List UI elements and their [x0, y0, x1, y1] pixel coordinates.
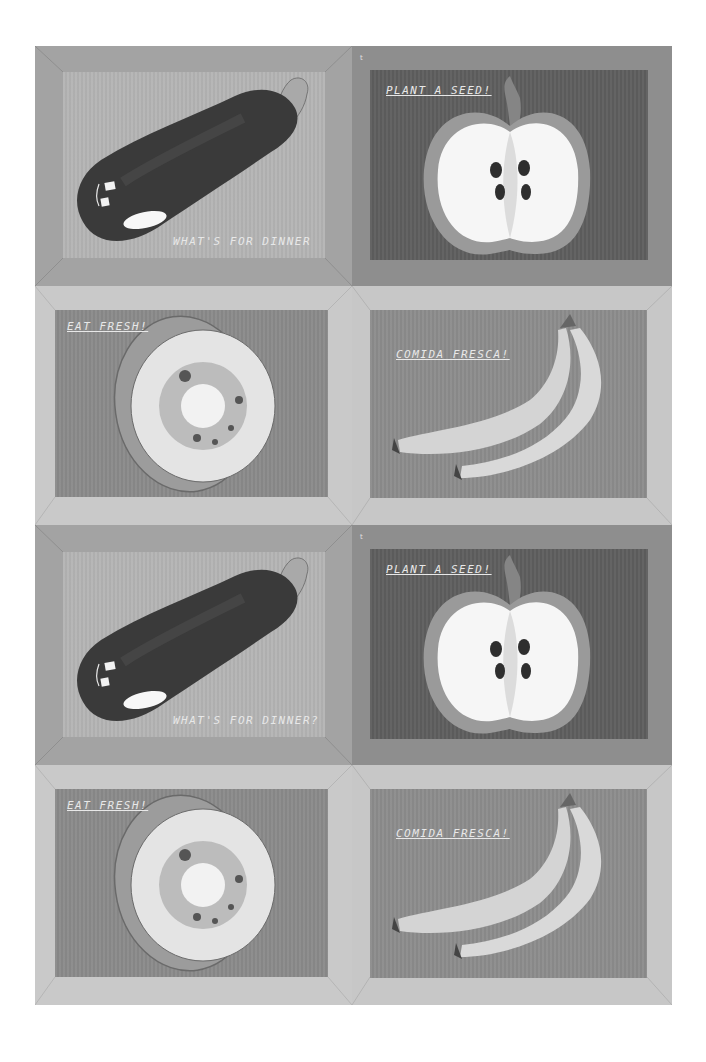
- placemat-inner: WHAT'S FOR DINNER?: [63, 552, 325, 737]
- placemat-caption: WHAT'S FOR DINNER?: [173, 714, 319, 727]
- placemat-caption: COMIDA FRESCA!: [396, 827, 510, 840]
- banana-illustration: [370, 789, 647, 978]
- apple-illustration: [370, 549, 648, 739]
- placemat-sheet: WHAT'S FOR DINNER t PLANT A SEED!: [35, 46, 672, 1005]
- kiwi-illustration: [55, 789, 328, 977]
- placemat-inner: PLANT A SEED!: [370, 549, 648, 739]
- placemat-inner: PLANT A SEED!: [370, 70, 648, 260]
- placemat-caption: PLANT A SEED!: [386, 563, 492, 576]
- placemat-inner: COMIDA FRESCA!: [370, 789, 647, 978]
- placemat-bananas: COMIDA FRESCA!: [352, 765, 672, 1005]
- eggplant-illustration: [63, 552, 325, 737]
- kiwi-illustration: [55, 310, 328, 497]
- placemat-kiwi: EAT FRESH!: [35, 286, 352, 525]
- placemat-eggplant: WHAT'S FOR DINNER: [35, 46, 352, 286]
- placemat-apple: t PLANT A SEED!: [352, 525, 672, 765]
- eggplant-illustration: [63, 72, 325, 258]
- apple-illustration: [370, 70, 648, 260]
- corner-mark: t: [360, 54, 363, 62]
- placemat-inner: COMIDA FRESCA!: [370, 310, 647, 498]
- corner-mark: t: [360, 533, 363, 541]
- placemat-caption: COMIDA FRESCA!: [396, 348, 510, 361]
- placemat-bananas: COMIDA FRESCA!: [352, 286, 672, 525]
- placemat-caption: PLANT A SEED!: [386, 84, 492, 97]
- placemat-caption: EAT FRESH!: [67, 799, 148, 812]
- placemat-caption: EAT FRESH!: [67, 320, 148, 333]
- placemat-apple: t PLANT A SEED!: [352, 46, 672, 286]
- placemat-eggplant: WHAT'S FOR DINNER?: [35, 525, 352, 765]
- placemat-kiwi: EAT FRESH!: [35, 765, 352, 1005]
- banana-illustration: [370, 310, 647, 498]
- placemat-inner: EAT FRESH!: [55, 789, 328, 977]
- placemat-inner: EAT FRESH!: [55, 310, 328, 497]
- placemat-inner: WHAT'S FOR DINNER: [63, 72, 325, 258]
- placemat-caption: WHAT'S FOR DINNER: [173, 235, 311, 248]
